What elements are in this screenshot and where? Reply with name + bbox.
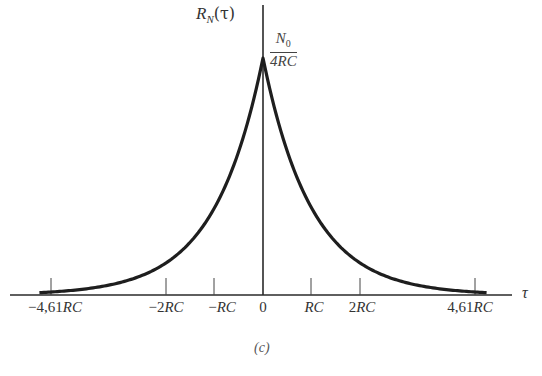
figure-caption: (c) bbox=[254, 340, 270, 356]
tick-label-neg-4-61rc: −4,61RC bbox=[28, 299, 82, 316]
tick-label-2rc: 2RC bbox=[349, 299, 376, 316]
tick-label-rc: RC bbox=[304, 299, 323, 316]
peak-value-label: N0 4RC bbox=[270, 30, 297, 69]
tick-label-4-61rc: 4,61RC bbox=[447, 299, 492, 316]
tick-label-zero: 0 bbox=[259, 299, 267, 316]
y-axis-label: RN(τ) bbox=[196, 4, 235, 25]
tick-label-neg-rc: −RC bbox=[208, 299, 236, 316]
tick-label-neg-2rc: −2RC bbox=[148, 299, 183, 316]
x-axis-label: τ bbox=[522, 284, 528, 302]
